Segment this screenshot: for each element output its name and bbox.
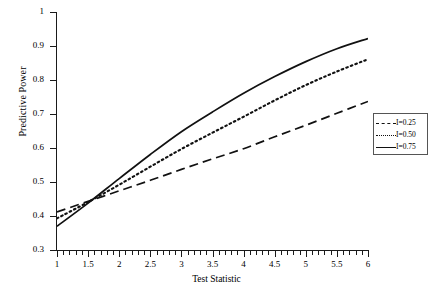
plot-area xyxy=(57,12,368,250)
x-axis-tick-label: 1 xyxy=(42,259,72,269)
y-axis-tick-label: 0.6 xyxy=(20,143,44,152)
x-axis-minor-tick xyxy=(132,251,133,255)
solid-line-key xyxy=(376,142,396,152)
dotted-line-key xyxy=(376,130,396,140)
x-axis-minor-tick xyxy=(169,251,170,255)
x-axis-tick-label: 4.5 xyxy=(260,259,290,269)
y-axis-tick-label: 0.8 xyxy=(20,75,44,84)
x-axis-minor-tick xyxy=(101,251,102,255)
y-axis-tick-label: 0.4 xyxy=(20,211,44,220)
x-axis-minor-tick xyxy=(144,251,145,255)
x-axis-minor-tick xyxy=(76,251,77,255)
x-axis-tick-label: 3 xyxy=(166,259,196,269)
x-axis-minor-tick xyxy=(293,251,294,255)
x-axis-minor-tick xyxy=(312,251,313,255)
legend-entry: I=0.25 xyxy=(376,117,425,129)
x-axis-minor-tick xyxy=(287,251,288,255)
y-axis-tick-label: 1 xyxy=(20,7,44,16)
x-axis-minor-tick xyxy=(318,251,319,255)
x-axis-tick-label: 4 xyxy=(229,259,259,269)
x-axis-minor-tick xyxy=(63,251,64,255)
x-axis-minor-tick xyxy=(324,251,325,255)
x-axis-minor-tick xyxy=(107,251,108,255)
x-axis-minor-tick xyxy=(206,251,207,255)
x-axis-major-tick xyxy=(150,251,151,257)
data-curves xyxy=(57,12,368,250)
x-axis-tick-label: 5.5 xyxy=(322,259,352,269)
x-axis-tick-label: 2 xyxy=(104,259,134,269)
x-axis-minor-tick xyxy=(349,251,350,255)
legend-entry: I=0.75 xyxy=(376,141,425,153)
x-axis-minor-tick xyxy=(125,251,126,255)
x-axis-minor-tick xyxy=(69,251,70,255)
x-axis-minor-tick xyxy=(262,251,263,255)
x-axis-title: Test Statistic xyxy=(0,274,433,284)
x-axis-major-tick xyxy=(244,251,245,257)
x-axis-major-tick xyxy=(337,251,338,257)
x-axis-minor-tick xyxy=(113,251,114,255)
x-axis-minor-tick xyxy=(356,251,357,255)
x-axis-minor-tick xyxy=(94,251,95,255)
x-axis-minor-tick xyxy=(219,251,220,255)
x-axis-minor-tick xyxy=(138,251,139,255)
x-axis-minor-tick xyxy=(237,251,238,255)
x-axis-minor-tick xyxy=(268,251,269,255)
x-axis-minor-tick xyxy=(343,251,344,255)
legend-entry: I=0.50 xyxy=(376,129,425,141)
x-axis-major-tick xyxy=(306,251,307,257)
x-axis-minor-tick xyxy=(331,251,332,255)
x-axis-major-tick xyxy=(368,251,369,257)
y-axis-tick-label: 0.3 xyxy=(20,245,44,254)
chart-figure: Predictive Power 0.30.40.50.60.70.80.91 … xyxy=(0,0,433,295)
x-axis-minor-tick xyxy=(175,251,176,255)
legend: I=0.25 I=0.50 I=0.75 xyxy=(373,113,428,155)
y-axis-tick-label: 0.7 xyxy=(20,109,44,118)
legend-entry-label: I=0.75 xyxy=(396,143,416,151)
x-axis-major-tick xyxy=(57,251,58,257)
x-axis-minor-tick xyxy=(163,251,164,255)
x-axis-major-tick xyxy=(181,251,182,257)
x-axis-minor-tick xyxy=(281,251,282,255)
x-axis-major-tick xyxy=(275,251,276,257)
x-axis-tick-label: 3.5 xyxy=(198,259,228,269)
x-axis-minor-tick xyxy=(157,251,158,255)
x-axis-minor-tick xyxy=(194,251,195,255)
x-axis-tick-label: 5 xyxy=(291,259,321,269)
legend-entry-label: I=0.25 xyxy=(396,119,416,127)
x-axis-minor-tick xyxy=(200,251,201,255)
series-line-i025 xyxy=(57,101,368,212)
dashed-line-key xyxy=(376,118,396,128)
x-axis-minor-tick xyxy=(256,251,257,255)
x-axis-minor-tick xyxy=(300,251,301,255)
series-line-i050 xyxy=(57,59,368,218)
x-axis-minor-tick xyxy=(82,251,83,255)
x-axis-tick-label: 1.5 xyxy=(73,259,103,269)
y-axis-tick-label: 0.5 xyxy=(20,177,44,186)
legend-entry-label: I=0.50 xyxy=(396,131,416,139)
x-axis-minor-tick xyxy=(362,251,363,255)
x-axis-minor-tick xyxy=(225,251,226,255)
x-axis-tick-label: 6 xyxy=(353,259,383,269)
y-axis-tick-label: 0.9 xyxy=(20,41,44,50)
x-axis-minor-tick xyxy=(250,251,251,255)
x-axis-major-tick xyxy=(213,251,214,257)
x-axis-minor-tick xyxy=(188,251,189,255)
x-axis-minor-tick xyxy=(231,251,232,255)
x-axis-tick-label: 2.5 xyxy=(135,259,165,269)
x-axis-major-tick xyxy=(88,251,89,257)
x-axis-major-tick xyxy=(119,251,120,257)
